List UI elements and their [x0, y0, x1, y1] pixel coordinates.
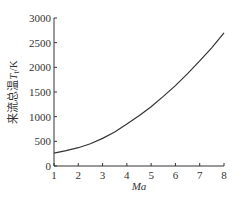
- y-tick-label: 2000: [29, 61, 52, 73]
- y-tick-label: 1500: [29, 86, 52, 98]
- x-tick-label: 5: [148, 169, 154, 181]
- y-tick-label: 2500: [29, 37, 52, 49]
- y-tick-label: 3000: [29, 12, 52, 24]
- total-temperature-curve: [54, 33, 224, 153]
- x-tick-label: 4: [124, 169, 130, 181]
- chart: 050010001500200025003000 12345678 Ma 来流总…: [0, 0, 245, 200]
- y-axis: 050010001500200025003000: [29, 12, 57, 172]
- x-axis-title: Ma: [131, 180, 147, 192]
- y-axis-title: 来流总温Tt/K: [6, 60, 21, 123]
- y-tick-label: 500: [35, 135, 52, 147]
- x-tick-label: 6: [173, 169, 179, 181]
- x-tick-label: 8: [221, 169, 227, 181]
- x-tick-label: 1: [51, 169, 57, 181]
- y-tick-label: 1000: [29, 111, 52, 123]
- x-tick-label: 7: [197, 169, 203, 181]
- x-tick-label: 3: [100, 169, 106, 181]
- x-tick-label: 2: [76, 169, 82, 181]
- x-axis: 12345678: [51, 163, 227, 181]
